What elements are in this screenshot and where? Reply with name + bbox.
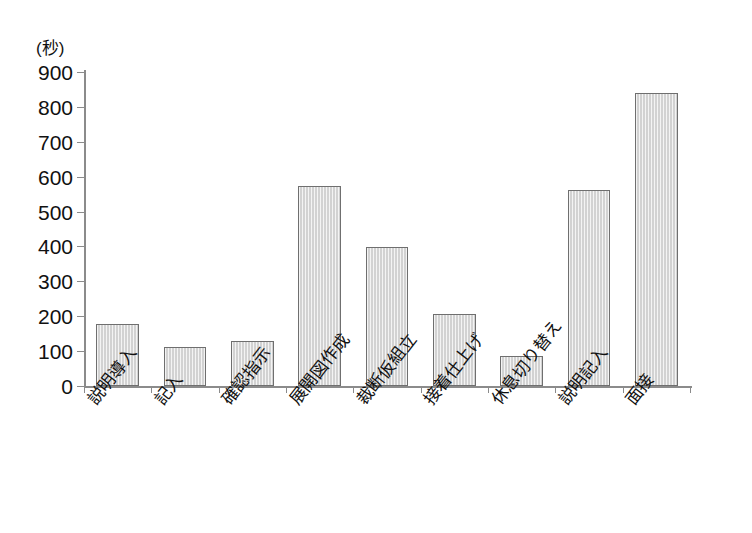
y-axis-tick-label: 900 xyxy=(38,62,73,83)
y-axis-tick xyxy=(77,316,84,317)
y-axis-tick-label: 300 xyxy=(38,271,73,292)
y-axis-tick-label: 500 xyxy=(38,201,73,222)
y-axis-unit-label: (秒) xyxy=(36,34,64,59)
y-axis-tick-label: 0 xyxy=(61,376,73,397)
y-axis-tick xyxy=(77,212,84,213)
chart-figure: (秒) 9008007006005004003002001000 説明導入記入確… xyxy=(0,0,752,533)
y-axis-tick-label: 400 xyxy=(38,236,73,257)
y-axis-tick xyxy=(77,72,84,73)
y-axis-tick-label: 700 xyxy=(38,131,73,152)
plot-area: 9008007006005004003002001000 xyxy=(84,72,690,386)
y-axis-tick xyxy=(77,351,84,352)
x-axis-tick xyxy=(690,386,691,393)
y-axis-tick-label: 100 xyxy=(38,341,73,362)
y-axis-tick-label: 200 xyxy=(38,306,73,327)
y-axis-tick xyxy=(77,177,84,178)
y-axis-tick-label: 600 xyxy=(38,166,73,187)
y-axis-tick xyxy=(77,246,84,247)
y-axis-tick xyxy=(77,281,84,282)
bar xyxy=(635,93,677,386)
y-axis-tick xyxy=(77,142,84,143)
y-axis-tick xyxy=(77,107,84,108)
y-axis-tick-label: 800 xyxy=(38,96,73,117)
y-axis-tick xyxy=(77,386,84,387)
